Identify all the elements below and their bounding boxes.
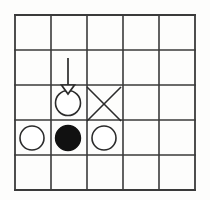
diagram-background [0,0,210,200]
white-stone-right [92,126,116,150]
black-stone-center [56,126,81,151]
white-stone-left [20,126,44,150]
board-diagram-svg [0,0,210,200]
diagram-canvas [0,0,210,200]
